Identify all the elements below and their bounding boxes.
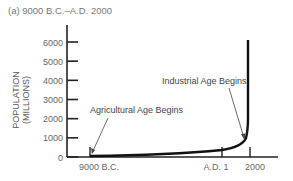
y-tick-label: 0 (58, 153, 63, 163)
y-ticks: 0100020003000400050006000 (43, 38, 78, 163)
annotations: Agricultural Age BeginsIndustrial Age Be… (90, 76, 247, 154)
x-ticks: 9000 B.C.A.D. 12000 (79, 147, 265, 172)
y-tick-label: 4000 (43, 76, 63, 86)
x-tick-label: A.D. 1 (203, 162, 228, 172)
x-tick-label: 9000 B.C. (79, 162, 119, 172)
y-tick-label: 5000 (43, 57, 63, 67)
y-tick-label: 1000 (43, 133, 63, 143)
annotation-agricultural: Agricultural Age Begins (90, 105, 184, 115)
x-tick-label: 2000 (245, 162, 265, 172)
y-tick-label: 2000 (43, 114, 63, 124)
annotation-industrial: Industrial Age Begins (162, 76, 247, 86)
chart-canvas: 0100020003000400050006000 9000 B.C.A.D. … (0, 0, 293, 181)
y-tick-label: 3000 (43, 95, 63, 105)
population-curve (90, 40, 248, 156)
y-tick-label: 6000 (43, 38, 63, 48)
